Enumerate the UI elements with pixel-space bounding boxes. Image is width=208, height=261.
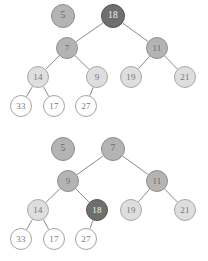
tree-node-label: 7 bbox=[111, 144, 116, 154]
tree-edge bbox=[77, 156, 103, 175]
tree-node-27: 27 bbox=[75, 95, 97, 117]
tree-edge bbox=[123, 23, 148, 41]
tree-node-5: 5 bbox=[51, 4, 75, 28]
tree-edge bbox=[43, 87, 48, 97]
tree-node-27: 27 bbox=[75, 228, 97, 250]
tree-node-label: 9 bbox=[66, 177, 71, 186]
tree-edge bbox=[76, 23, 103, 42]
tree-edge bbox=[76, 189, 89, 202]
tree-node-5: 5 bbox=[51, 137, 75, 161]
tree-edge bbox=[46, 189, 60, 203]
tree-edge bbox=[27, 219, 33, 229]
tree-node-33: 33 bbox=[10, 95, 32, 117]
tree-node-14: 14 bbox=[27, 199, 49, 221]
tree-node-label: 33 bbox=[16, 235, 25, 244]
tree-node-label: 21 bbox=[180, 206, 189, 215]
tree-edge bbox=[165, 56, 178, 69]
tree-node-label: 17 bbox=[49, 102, 58, 111]
tree-diagram-before: 5187111491921331727 bbox=[0, 0, 208, 131]
tree-node-19: 19 bbox=[120, 199, 142, 221]
tree-node-9: 9 bbox=[57, 170, 79, 192]
tree-node-label: 19 bbox=[126, 73, 135, 82]
tree-edge bbox=[90, 87, 93, 95]
tree-node-label: 5 bbox=[61, 144, 66, 154]
tree-node-label: 18 bbox=[108, 11, 118, 21]
tree-node-17: 17 bbox=[43, 228, 65, 250]
tree-node-label: 21 bbox=[180, 73, 189, 82]
tree-node-7: 7 bbox=[56, 37, 78, 59]
tree-node-7: 7 bbox=[101, 137, 125, 161]
tree-node-19: 19 bbox=[120, 66, 142, 88]
tree-edge bbox=[27, 86, 33, 96]
tree-node-9: 9 bbox=[86, 66, 108, 88]
tree-edge bbox=[90, 220, 93, 228]
tree-node-14: 14 bbox=[27, 66, 49, 88]
tree-node-label: 27 bbox=[81, 102, 90, 111]
tree-node-label: 33 bbox=[16, 102, 25, 111]
tree-diagram-after: 5791114181921331727 bbox=[0, 131, 208, 261]
tree-node-17: 17 bbox=[43, 95, 65, 117]
tree-node-label: 11 bbox=[152, 44, 161, 53]
tree-node-11: 11 bbox=[146, 37, 168, 59]
tree-node-label: 7 bbox=[65, 44, 70, 53]
tree-node-label: 5 bbox=[61, 11, 66, 21]
tree-node-label: 11 bbox=[152, 177, 161, 186]
tree-node-18: 18 bbox=[86, 199, 108, 221]
tree-edge bbox=[123, 156, 148, 174]
tree-node-label: 9 bbox=[95, 73, 100, 82]
binary-tree-figure: 5187111491921331727 5791114181921331727 bbox=[0, 0, 208, 261]
tree-node-label: 19 bbox=[126, 206, 135, 215]
tree-node-label: 27 bbox=[81, 235, 90, 244]
tree-node-label: 14 bbox=[33, 73, 42, 82]
tree-node-label: 17 bbox=[49, 235, 58, 244]
tree-edge bbox=[138, 56, 149, 69]
tree-edge bbox=[75, 56, 89, 70]
tree-node-21: 21 bbox=[174, 199, 196, 221]
tree-edge bbox=[165, 189, 178, 202]
tree-node-33: 33 bbox=[10, 228, 32, 250]
tree-node-label: 14 bbox=[33, 206, 42, 215]
tree-node-label: 18 bbox=[92, 206, 101, 215]
tree-edge bbox=[43, 220, 48, 230]
tree-edge bbox=[138, 189, 149, 202]
tree-edge bbox=[46, 56, 59, 69]
tree-node-18: 18 bbox=[101, 4, 125, 28]
tree-node-21: 21 bbox=[174, 66, 196, 88]
tree-node-11: 11 bbox=[146, 170, 168, 192]
